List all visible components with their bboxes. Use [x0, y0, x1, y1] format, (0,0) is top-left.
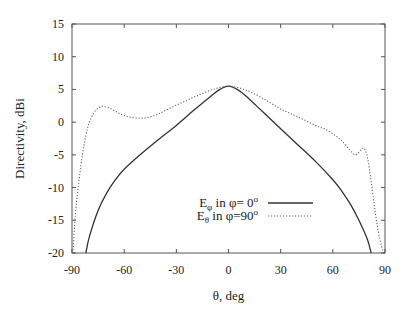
- axis-ticks: -90-60-300306090151050-5-10-15-20: [48, 17, 391, 277]
- legend: Eφ in φ= 0oEθ in φ=90o: [197, 194, 313, 225]
- y-tick-label: 15: [52, 17, 64, 31]
- y-axis-label: Directivity, dBi: [12, 98, 27, 179]
- x-axis-label: θ, deg: [213, 288, 245, 303]
- y-tick-label: -20: [48, 246, 64, 260]
- x-tick-label: -60: [116, 263, 132, 277]
- chart-svg: -90-60-300306090151050-5-10-15-20 θ, deg…: [0, 0, 409, 312]
- x-tick-label: 30: [275, 263, 287, 277]
- x-tick-label: -90: [64, 263, 80, 277]
- x-tick-label: -30: [168, 263, 184, 277]
- y-tick-label: 10: [52, 50, 64, 64]
- series-line-e-phi: [86, 86, 371, 253]
- y-tick-label: -15: [48, 213, 64, 227]
- x-tick-label: 90: [379, 263, 391, 277]
- y-tick-label: 5: [58, 82, 64, 96]
- series-layer: [73, 86, 384, 253]
- y-tick-label: -10: [48, 181, 64, 195]
- x-tick-label: 60: [327, 263, 339, 277]
- y-tick-label: 0: [58, 115, 64, 129]
- x-tick-label: 0: [226, 263, 232, 277]
- y-tick-label: -5: [54, 148, 64, 162]
- series-line-e-theta: [73, 86, 384, 253]
